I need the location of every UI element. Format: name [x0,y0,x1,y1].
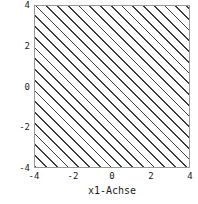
x-tick-label: 2 [148,172,153,181]
y-tick-label: 0 [25,82,30,91]
y-tick-label: -2 [19,123,30,132]
x-tick-label: 4 [187,172,192,181]
y-tick-label: -4 [19,164,30,173]
chart-figure: -4-2024 420-2-4 x1-Achse x2-Achse [0,0,198,204]
plot-area-hatched-region [34,5,190,168]
x-axis-label: x1-Achse [34,186,190,196]
y-tick-label: 2 [25,41,30,50]
y-tick-label: 4 [25,1,30,10]
x-tick-label: 0 [109,172,114,181]
x-tick-label: -2 [68,172,79,181]
x-tick-label: -4 [29,172,40,181]
